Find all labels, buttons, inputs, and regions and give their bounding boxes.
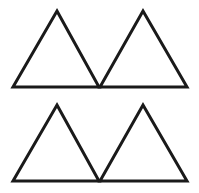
figure-canvas xyxy=(0,0,199,193)
figure-background xyxy=(0,0,199,193)
triangles-figure xyxy=(0,0,199,193)
